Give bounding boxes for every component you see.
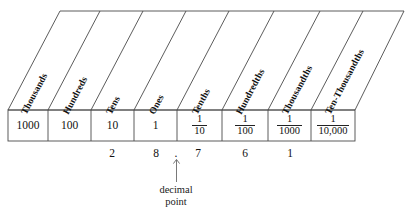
place-value-cell-ones: 1 <box>134 110 177 141</box>
place-value-cell-tenths: 1 10 <box>177 110 222 141</box>
digit-tens: 2 <box>104 147 120 159</box>
place-value-cell-thousandths: 1 1000 <box>268 110 311 141</box>
place-value-ones: 1 <box>153 120 159 132</box>
fraction-numerator: 1 <box>277 114 302 125</box>
place-value-hundreds: 100 <box>61 120 78 132</box>
place-value-cell-tens: 10 <box>91 110 134 141</box>
fraction-denominator: 10 <box>192 125 207 137</box>
fraction-numerator: 1 <box>192 114 207 125</box>
fraction-ten-thousandths: 1 10,000 <box>317 114 350 136</box>
place-value-cell-thousands: 1000 <box>8 110 48 141</box>
fraction-thousandths: 1 1000 <box>277 114 302 136</box>
place-value-cell-hundreds: 100 <box>48 110 91 141</box>
header-divider-2 <box>91 11 143 110</box>
place-value-tens: 10 <box>107 120 119 132</box>
fraction-tenths: 1 10 <box>192 114 207 136</box>
place-value-chart: Thousands Hundreds Tens Ones Tenths Hund… <box>0 0 409 209</box>
decimal-point-symbol: . <box>171 147 181 159</box>
decimal-point-caption-line2: point <box>131 195 221 208</box>
fraction-denominator: 10,000 <box>317 125 350 137</box>
place-value-thousands: 1000 <box>17 120 40 132</box>
place-value-cell-hundredths: 1 100 <box>222 110 268 141</box>
fraction-hundredths: 1 100 <box>235 114 255 136</box>
digit-hundredths: 6 <box>237 147 253 159</box>
digit-tenths: 7 <box>190 147 206 159</box>
fraction-denominator: 100 <box>235 125 255 137</box>
digit-thousandths: 1 <box>282 147 298 159</box>
fraction-denominator: 1000 <box>277 125 302 137</box>
fraction-numerator: 1 <box>235 114 255 125</box>
fraction-numerator: 1 <box>317 114 350 125</box>
decimal-point-arrow-icon <box>173 159 179 182</box>
digit-ones: 8 <box>148 147 164 159</box>
place-value-cell-ten-thousandths: 1 10,000 <box>311 110 355 141</box>
